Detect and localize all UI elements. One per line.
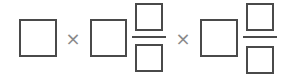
mixed-number-1-fraction-bar	[132, 36, 166, 38]
multiply-sign-1: ×	[64, 30, 82, 48]
blank-box-1[interactable]	[19, 19, 57, 57]
mixed-number-2-fraction-bar	[243, 36, 277, 38]
mixed-number-1-whole-box[interactable]	[90, 19, 127, 57]
mixed-number-2-denominator-box[interactable]	[246, 46, 274, 74]
mixed-number-2-whole-box[interactable]	[200, 19, 238, 57]
mixed-number-1-denominator-box[interactable]	[135, 44, 163, 72]
mixed-number-2-numerator-box[interactable]	[246, 3, 274, 31]
multiply-sign-2: ×	[174, 30, 192, 48]
mixed-number-1-numerator-box[interactable]	[135, 3, 163, 31]
